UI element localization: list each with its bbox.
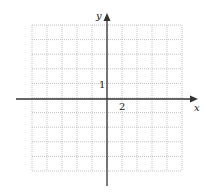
y-axis-arrow-icon — [104, 13, 111, 21]
y-axis-label: y — [95, 10, 102, 21]
x-tick-label: 2 — [119, 101, 125, 112]
y-tick-label: 1 — [99, 79, 105, 90]
x-axis-label: x — [194, 102, 200, 113]
coordinate-plane: x y 1 2 — [0, 0, 207, 193]
